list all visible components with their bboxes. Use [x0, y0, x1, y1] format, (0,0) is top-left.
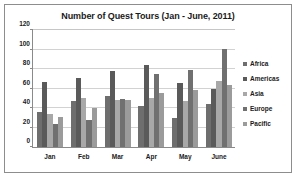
- legend-swatch-icon: [243, 77, 247, 81]
- legend-item-label: Europe: [250, 105, 272, 112]
- bar: [58, 117, 63, 147]
- legend-item-label: Americas: [250, 75, 279, 82]
- bar-group: [202, 30, 236, 147]
- x-axis-tick-label: June: [202, 153, 236, 160]
- x-axis-tick-label: Jan: [33, 153, 67, 160]
- legend-item-label: Pacific: [250, 120, 271, 127]
- bar: [125, 100, 130, 147]
- legend-swatch-icon: [243, 92, 247, 96]
- bar: [92, 108, 97, 147]
- legend-item-label: Africa: [250, 60, 268, 67]
- y-axis-tick-label: 80: [6, 59, 30, 66]
- chart-title: Number of Quest Tours (Jan - June, 2011): [5, 11, 291, 21]
- y-axis-tick-label: 0: [6, 137, 30, 144]
- bars-layer: [33, 30, 235, 147]
- x-axis-tick-label: Feb: [67, 153, 101, 160]
- plot-area: 020406080100120 JanFebMarAprMayJune: [32, 30, 235, 148]
- legend-swatch-icon: [243, 107, 247, 111]
- bar: [227, 85, 232, 147]
- bar: [193, 90, 198, 147]
- x-axis-tick-label: Mar: [101, 153, 135, 160]
- bar-group: [168, 30, 202, 147]
- y-axis-tick-label: 60: [6, 78, 30, 85]
- legend-item-label: Asia: [250, 90, 264, 97]
- y-axis-tick-label: 120: [6, 20, 30, 27]
- legend-swatch-icon: [243, 62, 247, 66]
- legend-item-europe: Europe: [243, 101, 293, 116]
- y-axis-tick-label: 40: [6, 98, 30, 105]
- legend-item-pacific: Pacific: [243, 116, 293, 131]
- y-axis-tick-label: 20: [6, 117, 30, 124]
- x-axis-tick-label: Apr: [134, 153, 168, 160]
- chart-frame: Number of Quest Tours (Jan - June, 2011)…: [4, 4, 292, 173]
- legend-item-africa: Africa: [243, 56, 293, 71]
- bar-group: [33, 30, 67, 147]
- bar-group: [101, 30, 135, 147]
- legend-item-americas: Americas: [243, 71, 293, 86]
- bar: [159, 93, 164, 147]
- legend-swatch-icon: [243, 122, 247, 126]
- bar-group: [135, 30, 169, 147]
- y-axis-tick-label: 100: [6, 39, 30, 46]
- legend-item-asia: Asia: [243, 86, 293, 101]
- chart-legend: AfricaAmericasAsiaEuropePacific: [243, 56, 293, 131]
- bar-group: [67, 30, 101, 147]
- x-axis-tick-label: May: [168, 153, 202, 160]
